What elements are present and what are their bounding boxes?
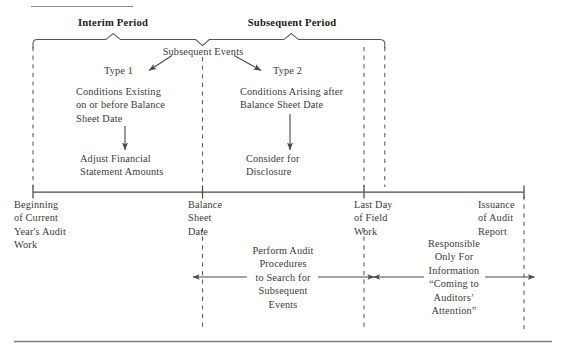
span-label-perform-audit-procedures: Perform Audit Procedures to Search for S… <box>238 244 328 311</box>
subsequent-events-diagram: Interim Period Subsequent Period Subsequ… <box>0 0 566 348</box>
type-1-action: Adjust Financial Statement Amounts <box>80 152 220 179</box>
milestone-label-beginning: Beginning of Current Year's Audit Work <box>14 198 109 252</box>
type-2-description: Conditions Arising after Balance Sheet D… <box>240 85 380 112</box>
heading-subsequent-period: Subsequent Period <box>232 17 352 28</box>
heading-interim-period: Interim Period <box>63 17 163 28</box>
span-label-responsible-only-for-information: Responsible Only For Information “Coming… <box>417 237 491 317</box>
milestone-label-issuance-of-audit-report: Issuance of Audit Report <box>478 198 558 238</box>
type-2-label: Type 2 <box>273 64 333 77</box>
timeline-axis <box>33 186 524 199</box>
type-1-description: Conditions Existing on or before Balance… <box>76 85 206 125</box>
milestone-label-last-day-of-field-work: Last Day of Field Work <box>354 198 434 238</box>
subsequent-events-label: Subsequent Events <box>148 45 258 58</box>
type-1-label: Type 1 <box>104 64 164 77</box>
milestone-label-balance-sheet-date: Balance Sheet Date <box>188 198 268 238</box>
type-2-action: Consider for Disclosure <box>246 152 356 179</box>
